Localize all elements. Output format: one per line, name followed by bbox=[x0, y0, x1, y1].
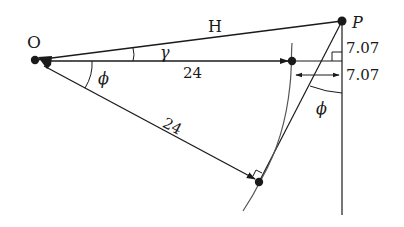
gamma-angle-arc bbox=[133, 48, 134, 61]
label-slanted-length: 24 bbox=[160, 114, 185, 139]
line-o-to-p bbox=[36, 21, 342, 60]
point-a-dot bbox=[288, 57, 296, 65]
circle-arc bbox=[243, 43, 292, 211]
arrow-o-to-b bbox=[44, 66, 255, 179]
phi-angle-arc-right bbox=[310, 86, 342, 93]
label-o: O bbox=[27, 32, 41, 52]
label-gamma: γ bbox=[160, 43, 170, 62]
right-angle-marker-p bbox=[332, 52, 342, 61]
label-vertical-offset: 7.07 bbox=[346, 39, 379, 57]
point-o-dot bbox=[31, 56, 39, 64]
right-angle-marker-b bbox=[253, 170, 262, 176]
geometry-diagram: O P H γ 24 ϕ 24 7.07 7.07 ϕ bbox=[0, 0, 404, 227]
label-phi-right: ϕ bbox=[316, 99, 327, 118]
point-b-dot bbox=[255, 178, 263, 186]
point-p-dot bbox=[338, 17, 347, 26]
label-h: H bbox=[208, 17, 222, 36]
label-phi-left: ϕ bbox=[98, 69, 109, 88]
label-p: P bbox=[351, 13, 363, 32]
phi-angle-arc-left bbox=[85, 61, 92, 88]
label-horizontal-offset: 7.07 bbox=[346, 66, 379, 84]
label-horizontal-length: 24 bbox=[183, 64, 202, 82]
